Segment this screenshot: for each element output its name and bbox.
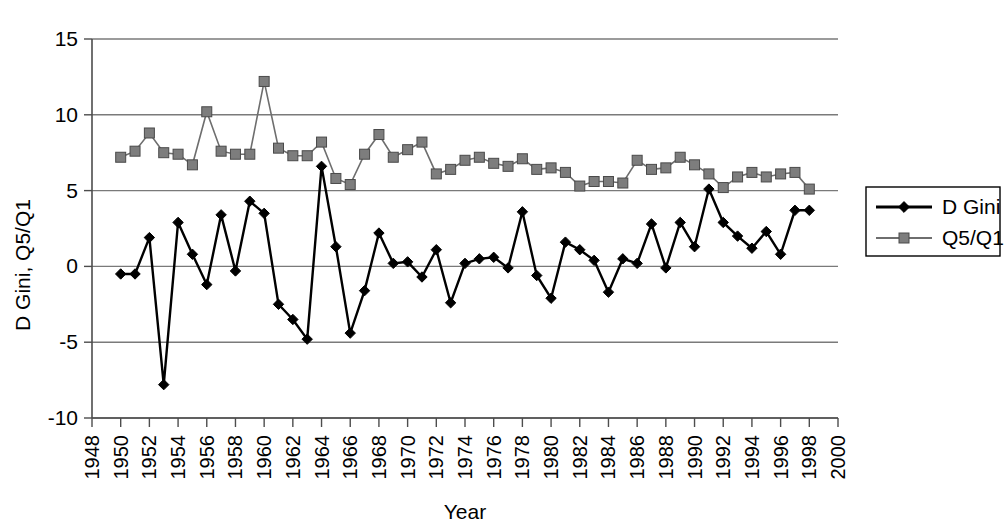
xtick-label-1992: 1992 <box>712 435 734 480</box>
xtick-labels-group: 1948195019521954195619581960196219641966… <box>81 435 849 480</box>
marker-q5q1-1952 <box>144 128 154 138</box>
marker-q5q1-1971 <box>417 137 427 147</box>
marker-q5q1-1980 <box>546 163 556 173</box>
legend-marker-q5q1 <box>899 233 909 243</box>
xtick-label-1948: 1948 <box>81 435 103 480</box>
marker-q5q1-1978 <box>517 154 527 164</box>
legend-label-dgini: D Gini <box>942 195 1000 218</box>
xtick-label-1988: 1988 <box>655 435 677 480</box>
ytick-label-5: 5 <box>66 179 78 202</box>
xtick-label-1962: 1962 <box>282 435 304 480</box>
ytick-label--10: -10 <box>48 406 78 429</box>
marker-q5q1-1985 <box>618 178 628 188</box>
xtick-label-1952: 1952 <box>138 435 160 480</box>
marker-q5q1-1972 <box>431 169 441 179</box>
xtick-label-1990: 1990 <box>684 435 706 480</box>
y-axis-label: D Gini, Q5/Q1 <box>11 199 34 331</box>
marker-q5q1-1966 <box>345 180 355 190</box>
marker-q5q1-1989 <box>675 152 685 162</box>
marker-q5q1-1960 <box>259 76 269 86</box>
marker-q5q1-1968 <box>374 130 384 140</box>
marker-q5q1-1984 <box>603 177 613 187</box>
marker-q5q1-1959 <box>245 149 255 159</box>
xtick-label-1956: 1956 <box>196 435 218 480</box>
marker-q5q1-1961 <box>274 143 284 153</box>
ytick-label--5: -5 <box>59 330 78 353</box>
marker-q5q1-1973 <box>446 164 456 174</box>
marker-q5q1-1977 <box>503 161 513 171</box>
marker-q5q1-1994 <box>747 167 757 177</box>
xtick-label-1996: 1996 <box>770 435 792 480</box>
xtick-label-1998: 1998 <box>798 435 820 480</box>
xtick-label-1968: 1968 <box>368 435 390 480</box>
x-axis-label: Year <box>444 500 486 523</box>
ytick-label-10: 10 <box>55 103 78 126</box>
marker-q5q1-1951 <box>130 146 140 156</box>
marker-q5q1-1986 <box>632 155 642 165</box>
marker-q5q1-1970 <box>403 145 413 155</box>
xtick-label-1960: 1960 <box>253 435 275 480</box>
marker-q5q1-1957 <box>216 146 226 156</box>
marker-q5q1-1974 <box>460 155 470 165</box>
marker-q5q1-1983 <box>589 177 599 187</box>
marker-q5q1-1956 <box>202 107 212 117</box>
marker-q5q1-1969 <box>388 152 398 162</box>
xtick-label-2000: 2000 <box>827 435 849 480</box>
marker-q5q1-1975 <box>474 152 484 162</box>
xtick-label-1970: 1970 <box>397 435 419 480</box>
ytick-label-15: 15 <box>55 27 78 50</box>
chart-svg: -10-5051015 1948195019521954195619581960… <box>0 0 1006 531</box>
marker-q5q1-1954 <box>173 149 183 159</box>
marker-q5q1-1955 <box>187 160 197 170</box>
chart-legend[interactable]: D GiniQ5/Q1 <box>866 187 1004 256</box>
marker-q5q1-1958 <box>230 149 240 159</box>
marker-q5q1-1993 <box>733 172 743 182</box>
xtick-label-1966: 1966 <box>339 435 361 480</box>
marker-q5q1-1988 <box>661 163 671 173</box>
xtick-label-1964: 1964 <box>311 435 333 480</box>
marker-q5q1-1990 <box>690 160 700 170</box>
marker-q5q1-1950 <box>116 152 126 162</box>
xtick-label-1950: 1950 <box>110 435 132 480</box>
xtick-label-1974: 1974 <box>454 435 476 480</box>
marker-q5q1-1982 <box>575 181 585 191</box>
xtick-label-1986: 1986 <box>626 435 648 480</box>
marker-q5q1-1998 <box>804 184 814 194</box>
xtick-label-1958: 1958 <box>224 435 246 480</box>
chart-figure: -10-5051015 1948195019521954195619581960… <box>0 0 1006 531</box>
marker-q5q1-1979 <box>532 164 542 174</box>
marker-q5q1-1981 <box>560 167 570 177</box>
xtick-label-1984: 1984 <box>597 435 619 480</box>
marker-q5q1-1991 <box>704 169 714 179</box>
marker-q5q1-1967 <box>360 149 370 159</box>
xtick-label-1994: 1994 <box>741 435 763 480</box>
marker-q5q1-1963 <box>302 151 312 161</box>
ytick-label-0: 0 <box>66 254 78 277</box>
legend-label-q5q1: Q5/Q1 <box>942 226 1004 249</box>
marker-q5q1-1995 <box>761 172 771 182</box>
xtick-label-1976: 1976 <box>483 435 505 480</box>
marker-q5q1-1953 <box>159 148 169 158</box>
marker-q5q1-1996 <box>776 169 786 179</box>
marker-q5q1-1976 <box>489 158 499 168</box>
marker-q5q1-1992 <box>718 183 728 193</box>
xtick-label-1972: 1972 <box>425 435 447 480</box>
marker-q5q1-1987 <box>647 164 657 174</box>
marker-q5q1-1997 <box>790 167 800 177</box>
xtick-label-1978: 1978 <box>511 435 533 480</box>
marker-q5q1-1962 <box>288 151 298 161</box>
marker-q5q1-1965 <box>331 173 341 183</box>
xtick-label-1980: 1980 <box>540 435 562 480</box>
xtick-label-1982: 1982 <box>569 435 591 480</box>
xtick-label-1954: 1954 <box>167 435 189 480</box>
marker-q5q1-1964 <box>317 137 327 147</box>
